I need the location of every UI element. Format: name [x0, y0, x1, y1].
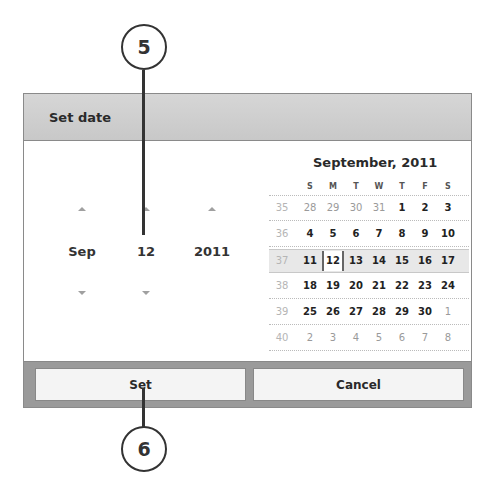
calendar-day[interactable]: 4	[345, 332, 367, 343]
week-number: 39	[271, 306, 293, 317]
calendar-week-row: 392526272829301	[269, 301, 469, 325]
calendar-day[interactable]: 2	[299, 332, 321, 343]
callout-5-leader-line	[142, 70, 145, 235]
callout-6-leader-line	[142, 388, 145, 428]
calendar-day[interactable]: 3	[437, 202, 459, 213]
week-number: 37	[271, 255, 293, 266]
dialog-title: Set date	[49, 110, 111, 125]
calendar-week-row: 3645678910	[269, 223, 469, 247]
callout-number: 5	[137, 36, 150, 58]
set-date-dialog: Set date Sep 12 2011 September, 2011 S M…	[23, 93, 472, 408]
week-number: 38	[271, 280, 293, 291]
calendar-day[interactable]: 2	[414, 202, 436, 213]
calendar-day[interactable]: 31	[368, 202, 390, 213]
calendar-day[interactable]: 15	[391, 255, 413, 266]
weekday-label: T	[345, 182, 367, 191]
month-decrement-arrow-icon[interactable]	[78, 291, 86, 295]
calendar-day[interactable]: 5	[322, 228, 344, 239]
calendar-day[interactable]: 28	[368, 306, 390, 317]
calendar-day[interactable]: 17	[437, 255, 459, 266]
calendar-day-selected[interactable]: 12	[322, 251, 344, 271]
calendar-month-title: September, 2011	[313, 155, 437, 170]
week-number: 35	[271, 202, 293, 213]
calendar-day[interactable]: 1	[437, 306, 459, 317]
weekday-label: M	[322, 182, 344, 191]
calendar-day[interactable]: 9	[414, 228, 436, 239]
calendar-day[interactable]: 26	[322, 306, 344, 317]
calendar-day[interactable]: 10	[437, 228, 459, 239]
month-increment-arrow-icon[interactable]	[78, 207, 86, 211]
calendar-week-row: 402345678	[269, 327, 469, 351]
weekday-label: S	[299, 182, 321, 191]
callout-5: 5	[121, 24, 167, 70]
calendar-day[interactable]: 21	[368, 280, 390, 291]
calendar-day[interactable]: 25	[299, 306, 321, 317]
button-bar: Set Cancel	[24, 361, 471, 407]
week-number: 36	[271, 228, 293, 239]
calendar-day[interactable]: 13	[345, 255, 367, 266]
calendar-day[interactable]: 4	[299, 228, 321, 239]
dialog-body: Sep 12 2011 September, 2011 S M T W T F …	[24, 141, 471, 362]
calendar-day[interactable]: 11	[299, 255, 321, 266]
calendar-day[interactable]: 6	[391, 332, 413, 343]
dialog-header: Set date	[24, 94, 471, 141]
calendar-day[interactable]: 30	[414, 306, 436, 317]
weekday-label: W	[368, 182, 390, 191]
calendar-day[interactable]: 16	[414, 255, 436, 266]
calendar-day[interactable]: 28	[299, 202, 321, 213]
calendar-day[interactable]: 3	[322, 332, 344, 343]
set-button[interactable]: Set	[35, 368, 246, 401]
callout-number: 6	[137, 438, 150, 460]
cancel-button[interactable]: Cancel	[253, 368, 464, 401]
calendar-day[interactable]: 14	[368, 255, 390, 266]
month-value[interactable]: Sep	[47, 244, 117, 259]
calendar-day[interactable]: 27	[345, 306, 367, 317]
calendar-day[interactable]: 23	[414, 280, 436, 291]
calendar-day[interactable]: 8	[391, 228, 413, 239]
calendar-day[interactable]: 19	[322, 280, 344, 291]
weekday-label: S	[437, 182, 459, 191]
calendar-day[interactable]: 18	[299, 280, 321, 291]
weekday-header: S M T W T F S	[269, 178, 469, 196]
calendar-week-row: 3711121314151617	[269, 249, 469, 273]
calendar-day[interactable]: 30	[345, 202, 367, 213]
calendar-day[interactable]: 6	[345, 228, 367, 239]
calendar-day[interactable]: 7	[368, 228, 390, 239]
calendar-week-row: 3818192021222324	[269, 275, 469, 299]
calendar-day[interactable]: 7	[414, 332, 436, 343]
weekday-label: F	[414, 182, 436, 191]
calendar-day[interactable]: 20	[345, 280, 367, 291]
day-spinner: 12	[111, 141, 181, 362]
calendar-day[interactable]: 29	[322, 202, 344, 213]
callout-6: 6	[121, 426, 167, 472]
calendar-week-row: 3528293031123	[269, 197, 469, 221]
calendar-day[interactable]: 29	[391, 306, 413, 317]
day-value[interactable]: 12	[111, 244, 181, 259]
year-increment-arrow-icon[interactable]	[208, 207, 216, 211]
calendar-day[interactable]: 5	[368, 332, 390, 343]
year-value[interactable]: 2011	[177, 244, 247, 259]
week-number: 40	[271, 332, 293, 343]
calendar-day[interactable]: 22	[391, 280, 413, 291]
calendar-day[interactable]: 1	[391, 202, 413, 213]
weekday-label: T	[391, 182, 413, 191]
calendar-day[interactable]: 8	[437, 332, 459, 343]
month-spinner: Sep	[47, 141, 117, 362]
year-spinner: 2011	[177, 141, 247, 362]
calendar-day[interactable]: 24	[437, 280, 459, 291]
day-decrement-arrow-icon[interactable]	[142, 291, 150, 295]
